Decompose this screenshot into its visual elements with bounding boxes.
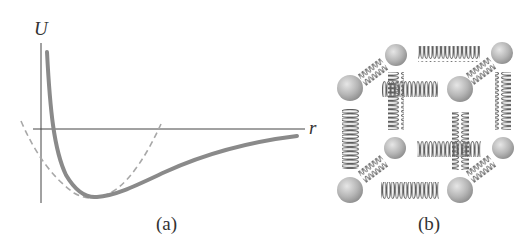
atom-sphere	[385, 44, 407, 66]
caption-b: (b)	[418, 213, 440, 235]
harmonic-approximation-dashed	[21, 121, 161, 198]
atom-sphere	[447, 177, 473, 203]
y-axis-label: U	[34, 18, 48, 40]
potential-energy-graph	[21, 43, 305, 203]
atom-sphere	[337, 177, 363, 203]
atom-sphere	[491, 42, 513, 64]
atom-sphere	[447, 76, 473, 102]
caption-a: (a)	[156, 213, 177, 235]
atom-sphere	[384, 137, 406, 159]
spring-lattice-model	[337, 42, 514, 203]
x-axis-label: r	[309, 117, 316, 139]
figure	[0, 0, 532, 248]
potential-curve	[47, 52, 297, 197]
atom-sphere	[337, 75, 363, 101]
atom-sphere	[492, 137, 514, 159]
